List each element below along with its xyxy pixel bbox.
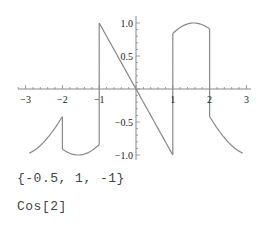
output-list: {-0.5, 1, -1} [17,171,125,186]
output-expression: Cos[2] [17,199,67,214]
x-tick-label: 1 [170,94,175,105]
x-tick-label: −2 [57,94,68,105]
y-tick-label: −1.0 [115,150,133,161]
x-tick-label: −3 [20,94,31,105]
x-tick-label: 2 [207,94,212,105]
x-tick-label: −1 [94,94,105,105]
x-tick-label: 3 [244,94,249,105]
y-tick-label: 0.5 [121,51,134,62]
piecewise-plot: −3−2−11231.00.5−0.5−1.0 [0,0,261,165]
axes [18,16,251,160]
y-tick-label: −0.5 [115,117,133,128]
y-tick-label: 1.0 [121,18,134,29]
